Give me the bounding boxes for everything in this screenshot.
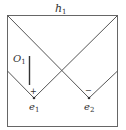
label-o1: O1	[13, 53, 26, 66]
sign-minus: −	[85, 86, 92, 95]
label-h1: h1	[55, 2, 67, 16]
diagram-canvas: h1 O1 + − e1 e2	[0, 0, 126, 130]
label-e1: e1	[29, 101, 39, 114]
right-arm	[89, 71, 118, 98]
sign-plus: +	[30, 87, 37, 96]
vertex-e1-dot	[33, 97, 36, 100]
diagonal-top-right	[34, 16, 118, 99]
vertex-e2-dot	[88, 97, 91, 100]
label-e2: e2	[84, 101, 94, 114]
